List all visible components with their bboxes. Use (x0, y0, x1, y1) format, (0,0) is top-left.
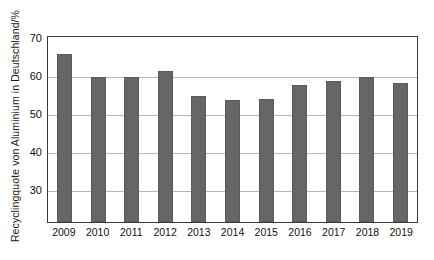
bar-slot-2015 (249, 37, 283, 222)
bar-2016[interactable] (292, 85, 307, 222)
x-tick-label-2009: 2009 (47, 226, 81, 238)
bar-slot-2018 (350, 37, 384, 222)
x-tick-label-2019: 2019 (384, 226, 418, 238)
bar-2019[interactable] (393, 83, 408, 222)
bar-2010[interactable] (91, 77, 106, 222)
y-tick-label-40: 40 (18, 146, 42, 158)
x-tick-label-2012: 2012 (148, 226, 182, 238)
bar-2013[interactable] (191, 96, 206, 222)
x-tick-label-2018: 2018 (351, 226, 385, 238)
x-tick-label-2014: 2014 (216, 226, 250, 238)
x-tick-label-2011: 2011 (114, 226, 148, 238)
bars-layer (48, 37, 417, 222)
bar-chart-figure: Recyclingquote von Aluminium in Deutschl… (0, 0, 434, 260)
bar-2009[interactable] (57, 54, 72, 222)
bar-2015[interactable] (259, 99, 274, 222)
bar-slot-2011 (115, 37, 149, 222)
bar-2017[interactable] (326, 81, 341, 222)
caption-sliver (0, 247, 434, 260)
x-tick-label-2015: 2015 (249, 226, 283, 238)
y-tick-label-30: 30 (18, 184, 42, 196)
x-tick-label-2013: 2013 (182, 226, 216, 238)
x-axis-tick-labels: 2009 2010 2011 2012 2013 2014 2015 2016 … (47, 226, 418, 242)
x-tick-label-2010: 2010 (81, 226, 115, 238)
x-tick-label-2016: 2016 (283, 226, 317, 238)
y-tick-label-50: 50 (18, 108, 42, 120)
bar-slot-2012 (149, 37, 183, 222)
bar-2014[interactable] (225, 100, 240, 222)
bar-slot-2016 (283, 37, 317, 222)
y-axis-tick-labels: 70 60 50 40 30 (18, 0, 42, 260)
y-tick-label-60: 60 (18, 70, 42, 82)
bar-slot-2013 (182, 37, 216, 222)
bar-slot-2017 (316, 37, 350, 222)
bar-2012[interactable] (158, 71, 173, 222)
bar-slot-2009 (48, 37, 82, 222)
bar-2018[interactable] (359, 77, 374, 222)
plot-area (47, 36, 418, 223)
bar-slot-2019 (383, 37, 417, 222)
bar-2011[interactable] (124, 77, 139, 222)
x-tick-label-2017: 2017 (317, 226, 351, 238)
y-tick-label-70: 70 (18, 32, 42, 44)
bar-slot-2010 (82, 37, 116, 222)
bar-slot-2014 (216, 37, 250, 222)
